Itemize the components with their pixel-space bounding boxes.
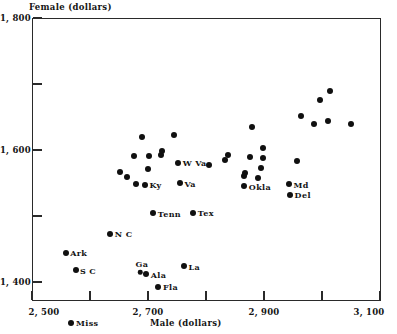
- data-point-miss: [68, 320, 74, 326]
- x-axis-title: Male (dollars): [150, 318, 222, 328]
- data-point-va: [177, 180, 183, 186]
- data-point-tenn: [150, 210, 156, 216]
- point-label-md: Md: [293, 180, 308, 190]
- data-point: [206, 162, 212, 168]
- scatter-chart: Female (dollars) Male (dollars) 1, 8001,…: [0, 0, 397, 334]
- data-point: [225, 152, 231, 158]
- data-point: [139, 134, 145, 140]
- data-point-ga: [138, 270, 143, 275]
- y-tick-mark: [33, 281, 42, 282]
- data-point-del: [287, 192, 293, 198]
- point-label-tenn: Tenn: [158, 209, 181, 219]
- data-point: [242, 170, 248, 176]
- x-tick-label: 3, 100: [354, 307, 385, 317]
- point-label-miss: Miss: [76, 318, 99, 328]
- data-point: [260, 145, 266, 151]
- plot-frame-right: [380, 18, 381, 301]
- point-label-va: Va: [184, 179, 195, 189]
- data-point: [117, 169, 123, 175]
- plot-frame-top: [32, 18, 381, 19]
- data-point-ala: [143, 271, 149, 277]
- point-label-ala: Ala: [151, 270, 167, 280]
- x-tick-mark: [263, 291, 264, 300]
- data-point: [131, 153, 137, 159]
- point-label-okla: Okla: [249, 182, 271, 192]
- x-tick-mark: [147, 291, 148, 300]
- point-label-la: La: [188, 262, 200, 272]
- y-tick-mark: [33, 83, 42, 84]
- data-point: [124, 174, 130, 180]
- y-tick-label: 1, 400: [0, 277, 29, 287]
- point-label-del: Del: [295, 190, 311, 200]
- x-axis-line: [32, 300, 381, 301]
- x-tick-mark: [379, 291, 380, 300]
- data-point: [294, 158, 300, 164]
- y-tick-mark: [33, 215, 42, 216]
- x-tick-label: 2, 700: [133, 307, 164, 317]
- point-label-ark: Ark: [70, 248, 87, 258]
- data-point: [325, 118, 331, 124]
- point-label-n-c: N C: [115, 229, 133, 239]
- data-point: [247, 154, 253, 160]
- data-point-ark: [63, 250, 69, 256]
- data-point: [348, 121, 354, 127]
- data-point-fla: [155, 284, 161, 290]
- data-point-la: [181, 263, 187, 269]
- data-point-w-va: [175, 160, 181, 166]
- point-label-ky: Ky: [150, 180, 162, 190]
- y-axis-line: [32, 18, 33, 301]
- data-point-tex: [190, 210, 196, 216]
- point-label-ga: Ga: [135, 259, 148, 269]
- y-tick-mark: [33, 17, 42, 18]
- y-tick-label: 1, 800: [0, 13, 29, 23]
- point-label-s-c: S C: [80, 266, 96, 276]
- data-point-n-c: [107, 231, 113, 237]
- data-point: [317, 97, 323, 103]
- data-point: [258, 165, 264, 171]
- data-point: [298, 113, 304, 119]
- x-tick-mark: [321, 291, 322, 300]
- x-tick-label: 2, 900: [249, 307, 280, 317]
- x-tick-mark: [89, 291, 90, 300]
- point-label-fla: Fla: [163, 282, 178, 292]
- point-label-w-va: W Va: [183, 158, 207, 168]
- y-axis-title: Female (dollars): [29, 2, 112, 12]
- data-point: [311, 121, 317, 127]
- x-tick-mark: [31, 291, 32, 300]
- y-tick-mark: [33, 149, 42, 150]
- data-point: [255, 175, 261, 181]
- data-point: [146, 153, 152, 159]
- data-point: [133, 181, 139, 187]
- data-point: [260, 155, 266, 161]
- y-tick-label: 1, 600: [0, 145, 29, 155]
- data-point: [327, 88, 333, 94]
- data-point-ky: [142, 182, 148, 188]
- data-point-s-c: [73, 267, 79, 273]
- data-point: [171, 132, 177, 138]
- x-tick-mark: [205, 291, 206, 300]
- data-point-okla: [241, 183, 247, 189]
- point-label-tex: Tex: [198, 208, 214, 218]
- data-point: [145, 166, 151, 172]
- data-point: [159, 148, 165, 154]
- data-point: [222, 157, 228, 163]
- x-tick-label: 2, 500: [29, 307, 60, 317]
- data-point-md: [286, 181, 292, 187]
- data-point: [249, 124, 255, 130]
